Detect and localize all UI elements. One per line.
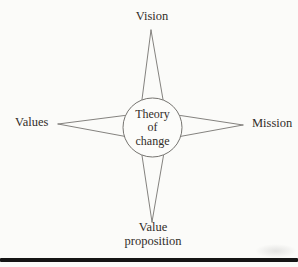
bottom-rule [0,258,298,262]
center-text-line1: Theory [125,107,181,121]
spoke-top [142,30,163,100]
spoke-bottom [142,156,164,223]
diagram-canvas: Theory of change Vision Values Mission V… [0,0,298,267]
label-value-proposition: Value proposition [111,221,195,248]
label-mission: Mission [252,117,292,130]
spoke-left [58,116,126,137]
label-values: Values [15,116,48,129]
label-vision: Vision [136,10,169,23]
center-text-line2: of [125,121,181,135]
center-circle-text: Theory of change [125,107,181,148]
spoke-right [180,116,243,137]
center-text-line3: change [125,134,181,148]
